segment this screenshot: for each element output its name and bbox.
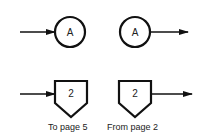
connector-label: A xyxy=(67,27,74,38)
caption-to-page: To page 5 xyxy=(48,122,88,132)
off-page-connector-in: 2 xyxy=(20,81,87,117)
off-page-connector-out: 2 xyxy=(119,81,192,117)
pentagon-connector-icon xyxy=(119,81,151,117)
connector-label: 2 xyxy=(132,88,138,99)
on-page-connector-in: A xyxy=(20,17,85,47)
connector-label: A xyxy=(132,27,139,38)
on-page-connector-out: A xyxy=(120,17,188,47)
caption-from-page: From page 2 xyxy=(107,122,158,132)
diagram-svg: A A 2 2 xyxy=(0,0,201,140)
pentagon-connector-icon xyxy=(55,81,87,117)
connector-symbols-diagram: A A 2 2 To page 5 From page 2 xyxy=(0,0,201,140)
connector-label: 2 xyxy=(68,88,74,99)
